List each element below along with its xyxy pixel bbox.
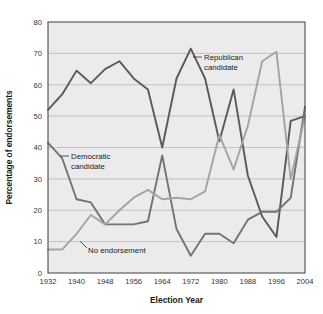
- y-tick-label-70: 70: [34, 49, 42, 58]
- y-tick-label-10: 10: [34, 237, 42, 246]
- republican-annotation-line-1: candidate: [204, 63, 238, 72]
- x-tick-label-1980: 1980: [211, 277, 228, 286]
- x-tick-label-1972: 1972: [182, 277, 199, 286]
- republican-annotation-line-0: Republican: [204, 53, 243, 62]
- y-tick-label-40: 40: [34, 143, 42, 152]
- no-endorsement-annotation-line-0: No endorsement: [88, 246, 146, 255]
- endorsement-line-chart: 01020304050607080 1932194019481956196419…: [0, 0, 323, 314]
- y-tick-label-30: 30: [34, 175, 42, 184]
- y-tick-label-50: 50: [34, 112, 42, 121]
- x-tick-label-1956: 1956: [125, 277, 142, 286]
- x-tick-label-1940: 1940: [68, 277, 85, 286]
- x-tick-label-1996: 1996: [268, 277, 285, 286]
- y-axis-title: Percentage of endorsements: [4, 90, 14, 204]
- democratic-annotation-line-1: candidate: [71, 162, 105, 171]
- x-tick-label-1988: 1988: [239, 277, 256, 286]
- x-tick-label-1948: 1948: [97, 277, 114, 286]
- y-tick-label-20: 20: [34, 206, 42, 215]
- y-tick-label-60: 60: [34, 81, 42, 90]
- x-tick-label-1964: 1964: [154, 277, 171, 286]
- chart-canvas: 01020304050607080 1932194019481956196419…: [0, 0, 323, 314]
- x-tick-label-1932: 1932: [40, 277, 57, 286]
- y-tick-label-80: 80: [34, 18, 42, 27]
- x-axis-title: Election Year: [150, 295, 204, 305]
- democratic-annotation-line-0: Democratic: [71, 152, 111, 161]
- x-tick-label-2004: 2004: [297, 277, 314, 286]
- y-axis-tick-labels: 01020304050607080: [34, 18, 42, 278]
